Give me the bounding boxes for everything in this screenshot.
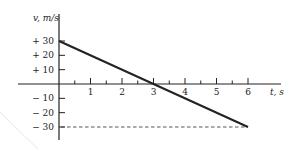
y-tick-label: + 10 — [32, 65, 54, 75]
x-axis-label: t, s — [270, 87, 284, 97]
x-tick-label-5: 5 — [214, 87, 220, 97]
x-tick-label-2: 2 — [119, 87, 125, 97]
y-tick-label: + 30 — [32, 36, 54, 46]
velocity-time-chart: 123456+ 30+ 20+ 10− 10− 20− 30 v, m/s t,… — [0, 0, 294, 149]
x-tick-label-4: 4 — [182, 87, 188, 97]
x-tick-label-1: 1 — [88, 87, 94, 97]
y-tick-label: − 20 — [32, 108, 54, 118]
x-tick-label-3: 3 — [151, 87, 157, 97]
y-axis-label: v, m/s — [33, 13, 59, 23]
y-tick-label: − 30 — [32, 122, 54, 132]
y-tick-label: − 10 — [32, 93, 54, 103]
axes — [18, 14, 281, 140]
x-tick-label-6: 6 — [245, 87, 251, 97]
y-tick-label: + 20 — [32, 50, 54, 60]
